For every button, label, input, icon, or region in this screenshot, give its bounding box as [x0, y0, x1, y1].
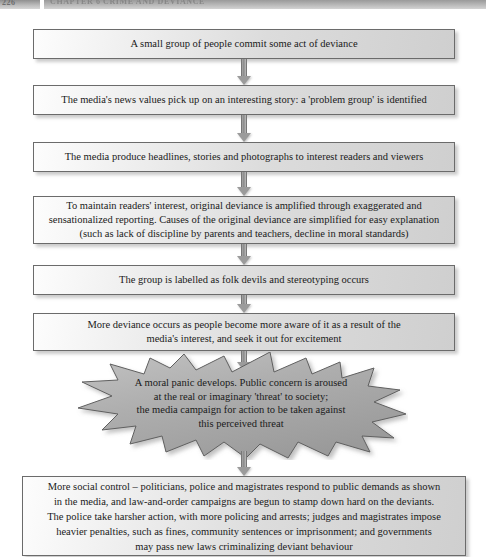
- arrow-head: [237, 76, 251, 85]
- flow-step-5-label: The group is labelled as folk devils and…: [34, 273, 454, 287]
- page-number: 226: [2, 0, 38, 7]
- arrow-head: [237, 304, 251, 313]
- arrow-head: [237, 256, 251, 265]
- arrow-shaft: [241, 451, 247, 467]
- arrow-down-icon-2: [237, 115, 251, 142]
- flow-step-3-label: The media produce headlines, stories and…: [34, 150, 454, 164]
- arrow-shaft: [241, 295, 247, 304]
- flow-step-2-box: The media's news values pick up on an in…: [33, 85, 455, 115]
- running-head-text: CHAPTER 6 CRIME AND DEVIANCE: [50, 0, 205, 6]
- arrow-down-icon-7: [237, 451, 251, 476]
- flow-step-8-box: More social control – politicians, polic…: [22, 476, 466, 556]
- flow-step-2-label: The media's news values pick up on an in…: [34, 93, 454, 107]
- arrow-head: [237, 187, 251, 196]
- arrow-shaft: [241, 172, 247, 187]
- flow-step-8-label: More social control – politicians, polic…: [23, 479, 465, 554]
- flow-step-4-box: To maintain readers' interest, original …: [33, 196, 455, 244]
- arrow-down-icon-3: [237, 172, 251, 196]
- page-folio-block: 226: [0, 0, 40, 9]
- arrow-head: [237, 133, 251, 142]
- arrow-down-icon-5: [237, 295, 251, 313]
- running-head-band: CHAPTER 6 CRIME AND DEVIANCE: [44, 0, 486, 9]
- flow-step-5-box: The group is labelled as folk devils and…: [33, 265, 455, 295]
- flow-step-1-label: A small group of people commit some act …: [34, 37, 454, 51]
- flow-step-6-box: More deviance occurs as people become mo…: [33, 313, 455, 351]
- arrow-shaft: [241, 244, 247, 256]
- arrow-down-icon-1: [237, 59, 251, 85]
- arrow-down-icon-4: [237, 244, 251, 265]
- flow-step-6-label: More deviance occurs as people become mo…: [34, 318, 454, 346]
- arrow-head: [237, 467, 251, 476]
- flow-step-7-starburst: A moral panic develops. Public concern i…: [74, 352, 408, 460]
- flow-step-3-box: The media produce headlines, stories and…: [33, 142, 455, 172]
- flowchart-diagram: A small group of people commit some act …: [0, 11, 486, 557]
- page-header-band: 226 CHAPTER 6 CRIME AND DEVIANCE: [0, 0, 486, 11]
- flow-step-4-label: To maintain readers' interest, original …: [34, 199, 454, 241]
- arrow-shaft: [241, 59, 247, 76]
- arrow-shaft: [241, 115, 247, 133]
- flow-step-1-box: A small group of people commit some act …: [33, 29, 455, 59]
- flow-step-7-label: A moral panic develops. Public concern i…: [126, 376, 356, 430]
